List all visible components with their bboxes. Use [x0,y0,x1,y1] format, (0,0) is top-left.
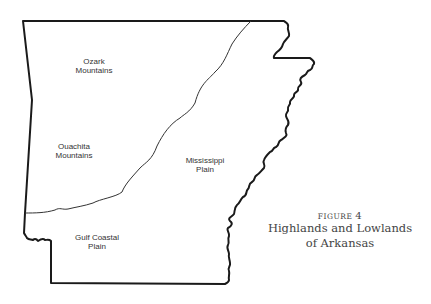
region-label-ouachita: Ouachita Mountains [56,142,93,160]
region-label-line1: Gulf Coastal [75,233,119,242]
region-label-line1: Ozark [76,57,113,66]
figure-title-line1: Highlands and Lowlands [268,221,412,236]
region-label-line2: Plain [186,165,225,174]
region-label-line2: Plain [75,242,119,251]
region-label-line1: Ouachita [56,142,93,151]
figure-caption: FIGURE 4 Highlands and Lowlands of Arkan… [268,210,412,251]
region-label-gulf-coastal: Gulf Coastal Plain [75,233,119,251]
region-label-line1: Mississippi [186,156,225,165]
region-divider-line [25,21,251,213]
region-label-line2: Mountains [76,66,113,75]
figure-number-line: FIGURE 4 [268,210,412,221]
region-label-line2: Mountains [56,151,93,160]
region-label-ozark: Ozark Mountains [76,57,113,75]
figure-title-line2: of Arkansas [268,236,412,251]
region-label-mississippi: Mississippi Plain [186,156,225,174]
figure-label: FIGURE [318,212,353,221]
figure-number: 4 [355,210,362,221]
